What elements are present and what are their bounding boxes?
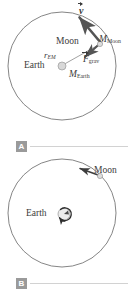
panel-b: Moon Earth: [0, 147, 138, 294]
moon-mass-label: MMoon: [99, 35, 121, 45]
gravity-force-label: Fgrav: [83, 55, 99, 65]
earth-label: Earth: [24, 61, 45, 71]
earth-label: Earth: [26, 209, 47, 219]
velocity-vector-label: v: [79, 6, 83, 16]
panel-a: v Moon MMoon rEM Fgrav Earth MEarth: [0, 0, 138, 147]
velocity-vector-arrow: [80, 18, 102, 44]
panel-b-figure: [0, 147, 138, 294]
moon-label: Moon: [56, 37, 79, 47]
earth-body: [58, 62, 66, 70]
caption-rule-b: [30, 283, 128, 284]
panel-badge-b: B: [16, 278, 27, 289]
moon-label: Moon: [94, 166, 117, 176]
caption-b: B: [16, 276, 128, 290]
orbit-radius-label: rEM: [44, 51, 56, 61]
earth-mass-label: MEarth: [69, 70, 90, 80]
